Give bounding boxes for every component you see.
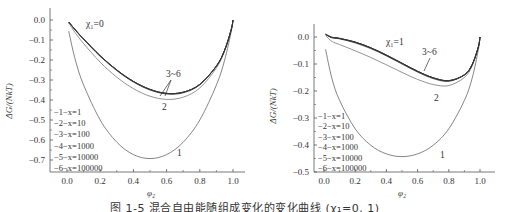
legend-entry: −4−x=1000 [318, 142, 358, 152]
legend-entry: −6−x=100000 [54, 163, 102, 173]
curve-label-2: 2 [162, 102, 167, 112]
curve-4 [69, 20, 233, 94]
x-tick-label: 0.4 [381, 176, 393, 186]
y-axis-label: ΔG/(NkT) [268, 88, 278, 124]
y-tick-label: −0.3 [293, 113, 310, 123]
y-tick-label: −0.1 [29, 35, 45, 45]
y-tick-label: 0.0 [34, 15, 46, 25]
x-tick-label: 0.6 [161, 176, 173, 186]
y-tick-label: −0.6 [29, 135, 46, 145]
y-axis: 0.0−0.1−0.2−0.3−0.4−0.5−0.6−0.7 [29, 8, 53, 172]
chi-annotation: χ₁=0 [85, 19, 104, 29]
legend-entry: −2−x=10 [318, 121, 349, 131]
y-tick-label: 0.0 [298, 32, 310, 42]
chart-chi-0: 0.0−0.1−0.2−0.3−0.4−0.5−0.6−0.7 0.00.20.… [4, 8, 245, 198]
x-tick-label: 1.0 [227, 176, 239, 186]
curve-2 [69, 20, 233, 99]
curve-label-pointer [424, 58, 430, 71]
y-axis: 0.0−0.1−0.2−0.3−0.4−0.5 [293, 24, 317, 177]
x-tick-label: 1.0 [474, 176, 486, 186]
legend: −1−x=1−2−x=10−3−x=100−4−x=1000−5−x=10000… [54, 107, 102, 173]
x-tick-label: 0.8 [443, 176, 455, 186]
chart-chi-1: 0.0−0.1−0.2−0.3−0.4−0.5 0.00.20.40.60.81… [268, 24, 495, 198]
curve-label-2: 2 [434, 93, 439, 103]
x-tick-label: 0.6 [412, 176, 424, 186]
chi-annotation: χ₁=1 [385, 37, 404, 47]
x-tick-label: 0.0 [318, 176, 330, 186]
y-axis-label: ΔG/(NkT) [4, 83, 14, 119]
legend-entry: −3−x=100 [54, 129, 90, 139]
x-tick-label: 0.8 [194, 176, 206, 186]
y-tick-label: −0.5 [293, 167, 310, 177]
curve-label-1: 1 [440, 150, 445, 160]
curve-label-3-6: 3~6 [422, 47, 437, 57]
y-tick-label: −0.2 [293, 86, 309, 96]
y-tick-label: −0.1 [293, 59, 309, 69]
curve-6 [69, 20, 233, 94]
x-axis-label: φ₂ [147, 188, 155, 198]
legend-entry: −4−x=1000 [54, 141, 94, 151]
x-axis-label: φ₂ [398, 188, 406, 198]
figure-canvas: 0.0−0.1−0.2−0.3−0.4−0.5−0.6−0.7 0.00.20.… [0, 0, 508, 212]
curve-label-3-6: 3~6 [166, 69, 181, 79]
x-tick-label: 0.0 [61, 176, 73, 186]
y-tick-label: −0.5 [29, 115, 46, 125]
figure-caption: 图 1-5 混合自由能随组成变化的变化曲线 (χ₁=0, 1) [110, 199, 430, 212]
y-tick-label: −0.4 [29, 95, 46, 105]
y-tick-label: −0.4 [293, 140, 310, 150]
legend-entry: −1−x=1 [318, 111, 345, 121]
x-tick-label: 0.2 [350, 176, 361, 186]
curve-5 [69, 20, 233, 94]
legend-entry: −5−x=10000 [54, 152, 98, 162]
curve-3 [69, 20, 233, 94]
curve-label-1: 1 [177, 148, 182, 158]
legend-entry: −3−x=100 [318, 132, 354, 142]
legend-entry: −1−x=1 [54, 107, 81, 117]
y-tick-label: −0.3 [29, 75, 46, 85]
x-tick-label: 0.2 [95, 176, 106, 186]
legend-entry: −5−x=10000 [318, 153, 362, 163]
x-tick-label: 0.4 [128, 176, 140, 186]
plot-curves [69, 20, 233, 159]
legend: −1−x=1−2−x=10−3−x=100−4−x=1000−5−x=10000… [318, 111, 366, 173]
legend-entry: −2−x=10 [54, 118, 85, 128]
legend-entry: −6−x=100000 [318, 163, 366, 173]
y-tick-label: −0.7 [29, 155, 46, 165]
y-tick-label: −0.2 [29, 55, 45, 65]
